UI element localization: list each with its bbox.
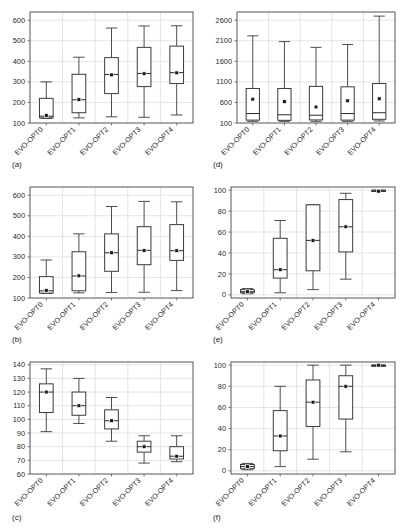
mean-marker <box>311 239 315 243</box>
panel-f-plot: 020406080100EVO-OPT0EVO-OPT1EVO-OPT2EVO-… <box>201 350 403 528</box>
panel-e-caption: (e) <box>213 335 223 344</box>
y-axis-(b): 100200300400500600 <box>13 191 30 303</box>
y-tick-label: 500 <box>13 36 25 45</box>
y-tick-label: 100 <box>13 119 25 128</box>
panel-b-caption: (b) <box>12 335 22 344</box>
y-tick-label: 60 <box>17 470 25 479</box>
y-tick-label: 120 <box>13 388 25 397</box>
box-iqr <box>72 74 86 112</box>
x-tick-label: EVO-OPT1 <box>45 300 77 332</box>
y-tick-label: 0 <box>222 290 226 299</box>
y-tick-label: 80 <box>17 442 25 451</box>
mean-marker <box>110 251 114 255</box>
x-tick-label: EVO-OPT1 <box>251 125 283 157</box>
mean-marker <box>344 384 348 388</box>
plot-area-(a): 100200300400500600EVO-OPT0EVO-OPT1EVO-OP… <box>0 0 201 175</box>
mean-marker <box>246 290 250 294</box>
x-tick-label: EVO-OPT2 <box>279 300 311 332</box>
y-axis-(f): 020406080100 <box>214 361 231 476</box>
y-tick-label: 500 <box>13 211 25 220</box>
mean-marker <box>77 98 81 102</box>
y-tick-label: 2600 <box>216 16 232 25</box>
y-axis-(e): 020406080100 <box>214 186 231 300</box>
x-tick-label: EVO-OPT3 <box>110 125 142 157</box>
plot-area-(d): 1006001100160021002600EVO-OPT0EVO-OPT1EV… <box>201 0 403 175</box>
x-axis-(c): EVO-OPT0EVO-OPT1EVO-OPT2EVO-OPT3EVO-OPT4 <box>13 474 177 508</box>
y-tick-label: 1600 <box>216 57 232 66</box>
y-tick-label: 600 <box>13 191 25 200</box>
mean-marker <box>344 225 348 229</box>
plot-area-(f): 020406080100EVO-OPT0EVO-OPT1EVO-OPT2EVO-… <box>201 350 403 528</box>
x-axis-(e): EVO-OPT0EVO-OPT1EVO-OPT2EVO-OPT3EVO-OPT4 <box>214 298 379 332</box>
y-tick-label: 20 <box>218 445 226 454</box>
y-tick-label: 20 <box>218 270 226 279</box>
mean-marker <box>377 97 381 101</box>
x-tick-label: EVO-OPT0 <box>13 300 45 332</box>
box-iqr <box>170 46 184 83</box>
x-tick-label: EVO-OPT0 <box>13 125 45 157</box>
y-tick-label: 100 <box>220 119 232 128</box>
y-tick-label: 70 <box>17 456 25 465</box>
y-tick-label: 400 <box>13 57 25 66</box>
box-iqr <box>72 252 86 291</box>
x-axis-(a): EVO-OPT0EVO-OPT1EVO-OPT2EVO-OPT3EVO-OPT4 <box>13 123 177 157</box>
panel-a: 100200300400500600EVO-OPT0EVO-OPT1EVO-OP… <box>0 0 201 175</box>
x-tick-label: EVO-OPT0 <box>219 125 251 157</box>
panel-d-plot: 1006001100160021002600EVO-OPT0EVO-OPT1EV… <box>201 0 403 175</box>
x-tick-label: EVO-OPT2 <box>282 125 314 157</box>
y-tick-label: 40 <box>218 424 226 433</box>
panel-e: 020406080100EVO-OPT0EVO-OPT1EVO-OPT2EVO-… <box>201 175 403 350</box>
mean-marker <box>77 404 81 408</box>
mean-marker <box>77 274 81 278</box>
boxplot-figure-grid: 100200300400500600EVO-OPT0EVO-OPT1EVO-OP… <box>0 0 403 528</box>
x-tick-label: EVO-OPT3 <box>110 476 142 508</box>
box-iqr <box>137 227 151 265</box>
y-tick-label: 200 <box>13 273 25 282</box>
boxplot-(f)-EVO-OPT0 <box>241 463 255 469</box>
x-tick-label: EVO-OPT4 <box>143 125 175 157</box>
mean-marker <box>142 249 146 253</box>
mean-marker <box>278 268 282 272</box>
panel-c-caption: (c) <box>12 513 21 522</box>
x-tick-label: EVO-OPT3 <box>314 125 346 157</box>
mean-marker <box>142 72 146 76</box>
x-tick-label: EVO-OPT2 <box>78 476 110 508</box>
x-tick-label: EVO-OPT1 <box>247 476 279 508</box>
panel-d: 1006001100160021002600EVO-OPT0EVO-OPT1EV… <box>201 0 403 175</box>
box-iqr <box>273 411 287 451</box>
box-iqr <box>137 47 151 86</box>
box-iqr <box>39 384 53 413</box>
y-tick-label: 140 <box>13 360 25 369</box>
mean-marker <box>251 97 255 101</box>
y-tick-label: 200 <box>13 98 25 107</box>
y-axis-(a): 100200300400500600 <box>13 16 30 128</box>
panel-e-plot: 020406080100EVO-OPT0EVO-OPT1EVO-OPT2EVO-… <box>201 175 403 350</box>
mean-marker <box>110 73 114 77</box>
mean-marker <box>175 249 179 253</box>
x-axis-(f): EVO-OPT0EVO-OPT1EVO-OPT2EVO-OPT3EVO-OPT4 <box>214 474 379 508</box>
box-iqr <box>339 376 353 419</box>
mean-marker <box>377 189 381 193</box>
x-tick-label: EVO-OPT0 <box>13 476 45 508</box>
mean-marker <box>44 390 48 394</box>
x-axis-(b): EVO-OPT0EVO-OPT1EVO-OPT2EVO-OPT3EVO-OPT4 <box>13 298 177 332</box>
box-iqr <box>170 225 184 261</box>
mean-marker <box>283 100 287 104</box>
box-iqr <box>278 88 291 120</box>
mean-marker <box>175 454 179 458</box>
x-tick-label: EVO-OPT1 <box>45 125 77 157</box>
x-tick-label: EVO-OPT3 <box>312 476 344 508</box>
panel-b-plot: 100200300400500600EVO-OPT0EVO-OPT1EVO-OP… <box>0 175 201 350</box>
y-tick-label: 300 <box>13 77 25 86</box>
y-axis-(c): 60708090100110120130140 <box>13 360 30 478</box>
panel-a-caption: (a) <box>12 160 22 169</box>
panel-f: 020406080100EVO-OPT0EVO-OPT1EVO-OPT2EVO-… <box>201 350 403 528</box>
panel-b: 100200300400500600EVO-OPT0EVO-OPT1EVO-OP… <box>0 175 201 350</box>
y-tick-label: 600 <box>13 16 25 25</box>
y-tick-label: 40 <box>218 249 226 258</box>
x-tick-label: EVO-OPT4 <box>143 300 175 332</box>
y-tick-label: 600 <box>220 98 232 107</box>
mean-marker <box>278 434 282 438</box>
box-iqr <box>306 205 320 271</box>
mean-marker <box>44 113 48 117</box>
